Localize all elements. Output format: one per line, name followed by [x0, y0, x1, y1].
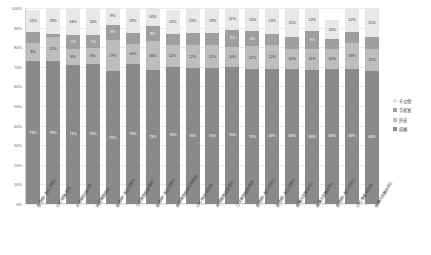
bar-segment[interactable]: 12% [245, 8, 259, 31]
legend-item[interactable]: その他 [393, 96, 431, 106]
bar-column[interactable]: 13%6%12%70% [205, 8, 219, 204]
bar-segment[interactable]: 11% [365, 49, 379, 71]
bar-column[interactable]: 12%6%13%69% [345, 8, 359, 204]
bar-segment-value-label: 6% [170, 29, 175, 33]
bar-segment[interactable]: 12% [46, 37, 60, 61]
bar-segment[interactable]: 7% [86, 35, 100, 48]
y-axis-tick-label: 40% [14, 123, 22, 128]
bar-segment[interactable]: 7% [66, 35, 80, 49]
y-axis-tick-label: 50% [14, 104, 22, 109]
bar-segment[interactable]: 8% [86, 48, 100, 63]
bar-column[interactable]: 12%8%12%70% [245, 8, 259, 204]
y-axis-tick-label: 100% [12, 6, 22, 11]
bar-segment-value-label: 14% [89, 20, 96, 24]
bar-segment-value-label: 12% [169, 20, 176, 24]
bar-column[interactable]: 10%8%16%73% [146, 8, 160, 204]
bar-segment-value-label: 6% [369, 33, 374, 37]
bar-segment[interactable]: 11% [225, 8, 239, 30]
bar-segment[interactable]: 14% [66, 8, 80, 35]
legend-item[interactable]: 手術室 [393, 106, 431, 116]
bar-segment-value-label: 69% [328, 134, 335, 138]
legend-item[interactable]: 病棟 [393, 125, 431, 135]
bar-segment-value-label: 7% [90, 40, 95, 44]
bars-container: 11%6%9%73%13%2%12%73%14%7%8%71%14%7%8%73… [25, 8, 380, 204]
bar-segment[interactable]: 14% [86, 8, 100, 35]
bar-segment[interactable]: 11% [166, 45, 180, 67]
bar-segment[interactable]: 12% [305, 8, 319, 31]
bar-segment[interactable]: 9% [225, 30, 239, 48]
bar-segment-value-label: 11% [169, 54, 176, 58]
bar-segment-value-label: 6% [130, 29, 135, 33]
bar-column[interactable]: 11%6%9%73% [26, 8, 40, 204]
bar-segment-value-label: 69% [289, 134, 296, 138]
bar-column[interactable]: 12%6%11%70% [166, 8, 180, 204]
bar-column[interactable]: 15%6%11%68% [365, 8, 379, 204]
bar-segment-value-label: 9% [230, 36, 235, 40]
bar-column[interactable]: 11%9%10%70% [225, 8, 239, 204]
bar-column[interactable]: 10%5%10%69% [325, 8, 339, 204]
bar-column[interactable]: 9%8%17%71% [106, 8, 120, 204]
bar-segment[interactable]: 6% [166, 34, 180, 46]
bar-segment[interactable]: 16% [146, 41, 160, 70]
bar-segment[interactable]: 12% [245, 46, 259, 69]
bar-segment-value-label: 11% [309, 57, 316, 61]
bar-column[interactable]: 15%6%10%69% [285, 8, 299, 204]
bar-segment[interactable]: 8% [66, 49, 80, 65]
bar-segment[interactable]: 6% [345, 32, 359, 44]
bar-segment[interactable]: 6% [186, 33, 200, 45]
bar-segment[interactable]: 71% [106, 71, 120, 204]
bar-segment[interactable]: 12% [186, 45, 200, 68]
bar-segment[interactable]: 11% [305, 49, 319, 70]
bar-segment[interactable]: 12% [265, 45, 279, 69]
bar-segment[interactable]: 73% [26, 61, 40, 204]
bar-column[interactable]: 13%6%10%73% [126, 8, 140, 204]
y-axis-tick-label: 60% [14, 84, 22, 89]
bar-segment[interactable]: 10% [146, 8, 160, 26]
bar-segment-value-label: 71% [69, 132, 76, 136]
bar-column[interactable]: 13%6%12%69% [265, 8, 279, 204]
bar-segment[interactable]: 6% [265, 34, 279, 46]
legend-item[interactable]: 外来 [393, 115, 431, 125]
bar-segment-value-label: 12% [49, 47, 56, 51]
bar-segment[interactable]: 6% [26, 32, 40, 44]
bar-segment[interactable]: 9% [305, 31, 319, 48]
bar-segment[interactable]: 8% [245, 31, 259, 46]
bar-segment[interactable]: 10% [225, 47, 239, 67]
bar-segment[interactable]: 10% [325, 49, 339, 69]
bar-segment[interactable]: 5% [325, 39, 339, 49]
bar-segment-value-label: 11% [229, 17, 236, 21]
bar-segment-value-label: 68% [368, 135, 375, 139]
bar-segment-value-label: 13% [129, 19, 136, 23]
y-axis-tick-label: 80% [14, 45, 22, 50]
bar-segment-value-label: 15% [368, 21, 375, 25]
bar-column[interactable]: 14%7%8%73% [86, 8, 100, 204]
bar-column[interactable]: 12%9%11%69% [305, 8, 319, 204]
bar-segment-value-label: 17% [109, 54, 116, 58]
bar-segment[interactable]: 71% [66, 65, 80, 204]
bar-column[interactable]: 14%7%8%71% [66, 8, 80, 204]
bar-segment[interactable]: 10% [126, 44, 140, 63]
bar-segment[interactable]: 8% [106, 25, 120, 40]
bar-segment[interactable]: 13% [345, 43, 359, 68]
bar-segment-value-label: 73% [29, 131, 36, 135]
legend-swatch-icon [393, 118, 397, 122]
bar-segment[interactable]: 12% [205, 45, 219, 68]
bar-segment[interactable]: 6% [365, 37, 379, 49]
bar-segment[interactable]: 17% [106, 40, 120, 72]
bar-segment-value-label: 69% [269, 134, 276, 138]
bar-segment[interactable]: 6% [126, 33, 140, 45]
bar-segment[interactable]: 8% [146, 26, 160, 41]
y-axis: 100%90%80%70%60%50%40%30%20%10%0% [0, 8, 24, 204]
bar-segment[interactable]: 9% [26, 43, 40, 61]
bar-segment-value-label: 70% [189, 134, 196, 138]
bar-segment-value-label: 16% [149, 54, 156, 58]
bar-segment-value-label: 8% [90, 54, 95, 58]
bar-segment[interactable]: 10% [285, 49, 299, 69]
bar-segment[interactable]: 6% [285, 37, 299, 49]
bar-segment-value-label: 11% [368, 58, 375, 62]
legend-item-label: 外来 [399, 117, 407, 123]
legend-item-label: 病棟 [399, 126, 407, 132]
bar-segment[interactable]: 6% [205, 33, 219, 45]
bar-segment[interactable]: 9% [106, 8, 120, 25]
bar-column[interactable]: 13%2%12%73% [46, 8, 60, 204]
